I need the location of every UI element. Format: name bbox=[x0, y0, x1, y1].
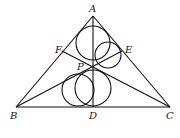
label-D: D bbox=[88, 110, 97, 121]
label-A: A bbox=[88, 3, 96, 14]
geometry-diagram: A B C D E F P bbox=[0, 0, 180, 138]
label-E: E bbox=[124, 44, 133, 55]
circle-upper-right bbox=[95, 42, 121, 68]
label-B: B bbox=[9, 110, 17, 121]
label-F: F bbox=[54, 44, 63, 55]
label-C: C bbox=[166, 110, 174, 121]
segment-AC bbox=[93, 16, 170, 107]
segment-BE bbox=[16, 51, 122, 107]
label-P: P bbox=[76, 61, 84, 72]
